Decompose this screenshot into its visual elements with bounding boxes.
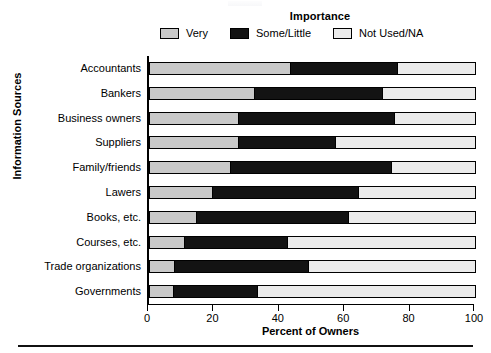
stacked-bar bbox=[149, 236, 476, 249]
bar-row bbox=[149, 236, 476, 249]
bar-segment-very bbox=[150, 261, 174, 272]
bar-row bbox=[149, 112, 476, 125]
y-axis-label: Bankers bbox=[11, 88, 141, 99]
x-axis-tick bbox=[409, 304, 410, 311]
x-axis-tick-label: 0 bbox=[144, 313, 150, 324]
legend-label-not-used: Not Used/NA bbox=[359, 27, 423, 39]
bar-segment-very bbox=[150, 237, 184, 248]
cropped-title-artifact bbox=[228, 1, 262, 6]
stacked-bar bbox=[149, 62, 476, 75]
legend-items: Very Some/Little Not Used/NA bbox=[160, 27, 480, 39]
x-axis-tick bbox=[212, 304, 213, 311]
y-axis-label: Trade organizations bbox=[11, 261, 141, 272]
stacked-bar bbox=[149, 161, 476, 174]
stacked-bar bbox=[149, 285, 476, 298]
bar-segment-very bbox=[150, 286, 173, 297]
x-axis-tick-label: 80 bbox=[402, 313, 414, 324]
y-axis-label: Books, etc. bbox=[11, 212, 141, 223]
bar-segment-not-used bbox=[358, 187, 475, 198]
bar-segment-not-used bbox=[382, 88, 475, 99]
bar-row bbox=[149, 136, 476, 149]
stacked-bar bbox=[149, 87, 476, 100]
bar-segment-very bbox=[150, 137, 238, 148]
bar-segment-not-used bbox=[308, 261, 475, 272]
legend-swatch-very bbox=[160, 28, 179, 39]
stacked-bar bbox=[149, 186, 476, 199]
bar-segment-some-little bbox=[230, 162, 391, 173]
bar-segment-very bbox=[150, 113, 238, 124]
legend-item-very: Very bbox=[160, 27, 208, 39]
legend-item-not-used: Not Used/NA bbox=[333, 27, 423, 39]
legend-label-very: Very bbox=[186, 27, 208, 39]
bar-segment-some-little bbox=[238, 113, 394, 124]
bar-segment-some-little bbox=[174, 261, 307, 272]
bar-segment-some-little bbox=[290, 63, 397, 74]
bar-row bbox=[149, 62, 476, 75]
x-axis-tick bbox=[278, 304, 279, 311]
legend-swatch-not-used bbox=[333, 28, 352, 39]
bar-segment-some-little bbox=[254, 88, 382, 99]
x-axis-tick-label: 40 bbox=[272, 313, 284, 324]
y-axis-label: Family/friends bbox=[11, 162, 141, 173]
bar-segment-very bbox=[150, 63, 290, 74]
x-axis-tick-label: 20 bbox=[206, 313, 218, 324]
bar-segment-very bbox=[150, 88, 254, 99]
legend-item-some-little: Some/Little bbox=[230, 27, 311, 39]
stacked-bar bbox=[149, 260, 476, 273]
bar-segment-some-little bbox=[212, 187, 358, 198]
x-axis-tick-label: 60 bbox=[337, 313, 349, 324]
legend-title: Importance bbox=[160, 10, 480, 23]
bottom-divider-rule bbox=[18, 345, 473, 347]
stacked-bar bbox=[149, 211, 476, 224]
bar-row bbox=[149, 186, 476, 199]
bar-segment-not-used bbox=[397, 63, 475, 74]
legend-swatch-some-little bbox=[230, 28, 249, 39]
bar-segment-some-little bbox=[196, 212, 349, 223]
bar-segment-not-used bbox=[257, 286, 475, 297]
bar-row bbox=[149, 285, 476, 298]
chart-figure: Importance Very Some/Little Not Used/NA … bbox=[0, 0, 491, 353]
legend-label-some-little: Some/Little bbox=[256, 27, 311, 39]
stacked-bar bbox=[149, 136, 476, 149]
bar-segment-very bbox=[150, 212, 196, 223]
x-axis: 020406080100 bbox=[147, 304, 474, 305]
y-axis-label: Business owners bbox=[11, 113, 141, 124]
stacked-bar bbox=[149, 112, 476, 125]
bar-row bbox=[149, 260, 476, 273]
plot-area bbox=[147, 56, 476, 304]
y-axis-label: Accountants bbox=[11, 63, 141, 74]
plot-rows bbox=[149, 56, 476, 304]
bar-segment-some-little bbox=[184, 237, 286, 248]
x-axis-title: Percent of Owners bbox=[147, 325, 474, 337]
bar-segment-not-used bbox=[335, 137, 475, 148]
bar-segment-some-little bbox=[173, 286, 258, 297]
bar-segment-not-used bbox=[348, 212, 475, 223]
y-axis-label: Suppliers bbox=[11, 137, 141, 148]
x-axis-tick bbox=[343, 304, 344, 311]
y-axis-label: Lawers bbox=[11, 187, 141, 198]
y-axis-label: Governments bbox=[11, 286, 141, 297]
x-axis-tick-label: 100 bbox=[465, 313, 483, 324]
bar-segment-some-little bbox=[238, 137, 336, 148]
bar-row bbox=[149, 211, 476, 224]
x-axis-tick bbox=[147, 304, 148, 311]
bar-row bbox=[149, 161, 476, 174]
bar-segment-not-used bbox=[287, 237, 476, 248]
bar-segment-not-used bbox=[391, 162, 476, 173]
bar-segment-very bbox=[150, 187, 212, 198]
x-axis-tick bbox=[473, 304, 474, 311]
bar-row bbox=[149, 87, 476, 100]
y-axis-tick-labels: AccountantsBankersBusiness ownersSupplie… bbox=[8, 56, 141, 304]
bar-segment-not-used bbox=[394, 113, 475, 124]
y-axis-label: Courses, etc. bbox=[11, 237, 141, 248]
bar-segment-very bbox=[150, 162, 230, 173]
chart-legend: Importance Very Some/Little Not Used/NA bbox=[160, 10, 480, 39]
